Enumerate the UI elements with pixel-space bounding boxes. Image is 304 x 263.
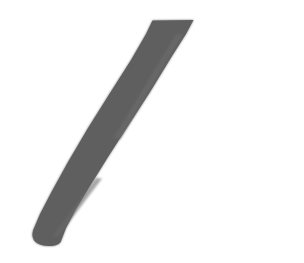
stroke-layer bbox=[0, 0, 304, 263]
drawing-canvas[interactable]: Single gray diagonal brush stroke on a b… bbox=[0, 0, 304, 263]
